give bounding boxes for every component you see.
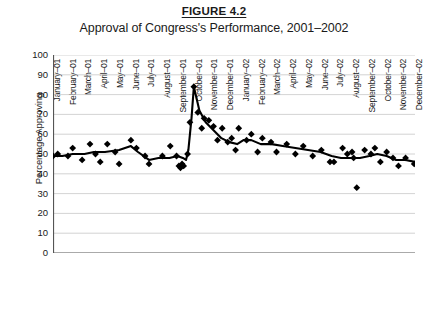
y-axis-tick-label: 60 [37, 129, 48, 139]
y-axis-tick-label: 30 [37, 189, 48, 199]
data-point-marker [198, 125, 205, 132]
data-point-marker [87, 141, 94, 148]
data-point-marker [146, 161, 153, 168]
y-axis-tick-label: 40 [37, 169, 48, 179]
data-point-marker [116, 161, 123, 168]
figure-number: FIGURE 4.2 [0, 4, 428, 19]
figure-title-block: FIGURE 4.2 Approval of Congress's Perfor… [0, 4, 428, 37]
data-point-marker [69, 145, 76, 152]
data-point-marker [395, 162, 402, 169]
data-point-marker [128, 137, 135, 144]
data-point-marker [79, 157, 86, 164]
data-point-marker [377, 159, 384, 166]
figure-container: FIGURE 4.2 Approval of Congress's Perfor… [0, 0, 428, 336]
y-axis-tick-label: 10 [37, 228, 48, 238]
y-axis-tick-label: 50 [37, 149, 48, 159]
y-axis-tick-label: 70 [37, 110, 48, 120]
plot-area: Percentage Approving 0102030405060708090… [53, 55, 415, 253]
data-point-marker [235, 125, 242, 132]
data-point-marker [219, 125, 226, 132]
chart-canvas [53, 55, 415, 253]
data-point-marker [371, 145, 378, 152]
y-axis-tick-label: 90 [37, 70, 48, 80]
data-point-marker [353, 184, 360, 191]
data-point-marker [232, 147, 239, 154]
y-axis-tick-label: 20 [37, 209, 48, 219]
data-point-marker [167, 143, 174, 150]
data-point-marker [248, 131, 255, 138]
data-point-marker [104, 141, 111, 148]
x-axis-tick-label: December–02 [415, 59, 424, 110]
data-point-marker [97, 159, 104, 166]
data-point-marker [339, 145, 346, 152]
data-point-marker [259, 135, 266, 142]
y-axis-tick-label: 100 [32, 50, 48, 60]
page-title: Approval of Congress's Performance, 2001… [0, 20, 428, 37]
y-axis-tick-label: 0 [43, 248, 48, 258]
data-point-marker [361, 147, 368, 154]
y-axis-tick-label: 80 [37, 90, 48, 100]
data-point-marker [292, 151, 299, 158]
data-point-marker [331, 159, 338, 166]
